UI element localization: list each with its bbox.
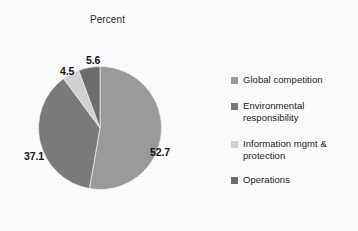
legend-label: Information mgmt & protection [243, 138, 355, 163]
pie-svg [38, 66, 162, 190]
legend-swatch-icon [231, 141, 238, 148]
legend-label: Environmental responsibility [243, 100, 355, 125]
chart-legend: Global competition Environmental respons… [231, 74, 355, 199]
legend-label: Global competition [243, 74, 323, 87]
slice-value-global-competition: 52.7 [150, 146, 170, 158]
legend-swatch-icon [231, 103, 238, 110]
legend-label: Operations [243, 174, 290, 187]
legend-swatch-icon [231, 77, 238, 84]
pie-plot-area: 52.7 37.1 4.5 5.6 [38, 66, 162, 190]
legend-item-information-mgmt-protection[interactable]: Information mgmt & protection [231, 138, 355, 163]
legend-item-operations[interactable]: Operations [231, 174, 355, 187]
legend-swatch-icon [231, 177, 238, 184]
legend-item-environmental-responsibility[interactable]: Environmental responsibility [231, 100, 355, 125]
slice-value-environmental-responsibility: 37.1 [24, 150, 44, 162]
legend-item-global-competition[interactable]: Global competition [231, 74, 355, 87]
slice-value-operations: 5.6 [86, 54, 100, 66]
chart-title: Percent [0, 14, 215, 25]
slice-value-information-mgmt: 4.5 [60, 65, 74, 77]
pie-chart-figure: Percent 52.7 37.1 4.5 5.6 Global competi… [0, 0, 358, 231]
